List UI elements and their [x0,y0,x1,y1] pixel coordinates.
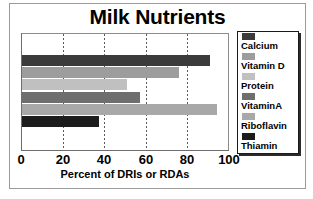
bar-protein [22,79,127,90]
chart-title: Milk Nutrients [9,5,306,29]
legend-item: Protein [238,72,298,92]
x-axis-label: Percent of DRIs or RDAs [21,168,229,180]
bar-calcium [22,55,210,66]
x-tick-100: 100 [209,152,249,167]
plot-border-top [21,33,229,34]
chart-figure: Milk Nutrients 020406080100 Percent of D… [0,0,313,199]
legend-item: VitaminA [238,92,298,112]
legend-swatch-icon [242,113,255,120]
legend-label: Vitamin D [241,60,285,71]
legend-label: Calcium [241,40,278,51]
x-tick-60: 60 [126,152,166,167]
bar-vitamina [22,92,140,103]
x-axis-line [21,150,229,151]
legend-swatch-icon [242,73,255,80]
legend-item: Vitamin D [238,52,298,72]
gridline-60 [146,34,147,150]
legend-item: Thiamin [238,132,298,152]
gridline-80 [187,34,188,150]
legend-label: Riboflavin [241,120,287,131]
legend-swatch-icon [242,133,255,140]
legend-swatch-icon [242,53,255,60]
x-tick-80: 80 [167,152,207,167]
legend-swatch-icon [242,33,255,40]
legend-label: Protein [241,80,274,91]
legend-item: Riboflavin [238,112,298,132]
legend-item: Calcium [238,32,298,52]
chart-legend: CalciumVitamin DProteinVitaminARiboflavi… [237,31,299,154]
legend-swatch-icon [242,93,255,100]
legend-label: VitaminA [241,100,282,111]
plot-border-right [228,33,229,151]
bar-vitamin-d [22,67,179,78]
x-tick-40: 40 [84,152,124,167]
x-tick-20: 20 [43,152,83,167]
bar-thiamin [22,116,99,127]
bar-riboflavin [22,104,217,115]
legend-label: Thiamin [241,140,277,151]
x-tick-0: 0 [1,152,41,167]
